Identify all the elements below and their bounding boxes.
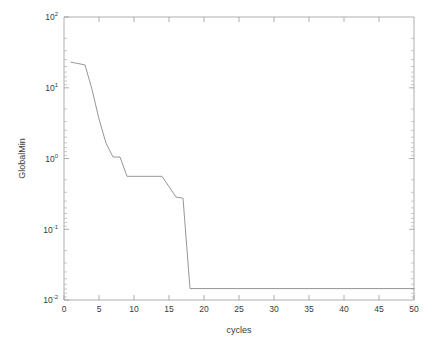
y-axis-title: GlobalMin: [17, 138, 27, 179]
x-tick-label-30: 30: [269, 304, 279, 314]
y-tick-label-1em2: 10-2: [43, 294, 58, 305]
y-tick-label-1e1: 101: [45, 82, 58, 93]
x-tick-label-45: 45: [374, 304, 384, 314]
x-tick-label-35: 35: [304, 304, 314, 314]
y-tick-label-1e2: 102: [45, 11, 58, 22]
y-tick-labels: 102 101 100 10-1 10-2: [43, 11, 58, 305]
x-tick-label-0: 0: [62, 304, 67, 314]
x-tick-label-10: 10: [129, 304, 139, 314]
x-tick-label-50: 50: [409, 304, 419, 314]
x-tick-label-20: 20: [199, 304, 209, 314]
y-tick-label-1e0: 100: [45, 153, 58, 164]
plot-area-background: [64, 17, 414, 300]
y-tick-label-1em1: 10-1: [43, 224, 58, 235]
x-tick-label-15: 15: [164, 304, 174, 314]
chart-canvas: 0 5 10 15 20 25 30 35 40 45 50 102 101 1…: [0, 0, 434, 358]
x-tick-labels: 0 5 10 15 20 25 30 35 40 45 50: [62, 304, 419, 314]
x-tick-label-25: 25: [234, 304, 244, 314]
figure-container: 0 5 10 15 20 25 30 35 40 45 50 102 101 1…: [0, 0, 434, 358]
x-tick-label-5: 5: [97, 304, 102, 314]
x-axis-title: cycles: [226, 325, 252, 335]
x-tick-label-40: 40: [339, 304, 349, 314]
